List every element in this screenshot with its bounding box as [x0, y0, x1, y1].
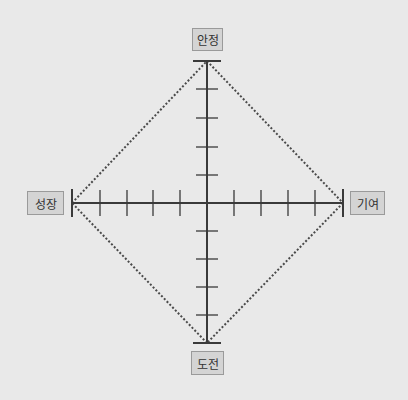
- label-top-stability: 안정: [192, 28, 223, 51]
- label-left-growth: 성장: [27, 191, 64, 215]
- label-right-contribution: 기여: [350, 191, 385, 215]
- label-bottom-challenge: 도전: [191, 351, 224, 375]
